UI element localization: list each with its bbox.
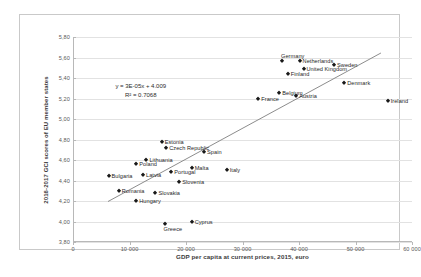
y-axis-tick-labels: 3,804,004,204,404,604,805,005,205,405,60… — [42, 37, 70, 242]
data-point[interactable] — [256, 96, 261, 101]
y-axis-tick-label: 5,00 — [59, 116, 70, 122]
y-axis-tick-mark — [73, 181, 76, 182]
x-axis-tick-label: 50 000 — [347, 246, 365, 252]
y-axis-tick-mark — [73, 160, 76, 161]
data-point-label: Slovakia — [158, 190, 180, 196]
x-axis-tick-label: 30 000 — [234, 246, 252, 252]
gridline — [73, 37, 412, 38]
y-axis-tick-label: 5,80 — [59, 34, 70, 40]
data-point-label: Spain — [207, 149, 222, 155]
data-point-label: Denmark — [347, 80, 370, 86]
y-axis-tick-mark — [73, 140, 76, 141]
x-axis-title: GDP per capita at current prices, 2015, … — [73, 253, 412, 260]
data-point-label: Finland — [291, 71, 310, 77]
y-axis-tick-label: 4,60 — [59, 157, 70, 163]
y-axis-tick-mark — [73, 78, 76, 79]
data-point-label: Latvia — [146, 172, 161, 178]
data-point-label: Bulgaria — [112, 173, 133, 179]
data-point-label: Malta — [195, 165, 209, 171]
y-axis-tick-label: 5,20 — [59, 96, 70, 102]
data-point-label: Portugal — [174, 169, 195, 175]
data-point-label: Romania — [122, 188, 145, 194]
gridline — [73, 160, 412, 161]
data-point-label: Hungary — [139, 198, 161, 204]
data-point-label: Germany — [281, 53, 304, 59]
x-axis-tick-label: 60 000 — [403, 246, 421, 252]
regression-equation: y = 3E-05x + 4.009 — [115, 82, 166, 91]
y-axis-tick-mark — [73, 201, 76, 202]
y-axis-tick-label: 4,40 — [59, 178, 70, 184]
y-axis-tick-label: 5,40 — [59, 75, 70, 81]
data-point[interactable] — [116, 188, 121, 193]
data-point-label: Sweden — [337, 62, 358, 68]
gridline — [73, 201, 412, 202]
data-point-label: Netherlands — [303, 58, 334, 64]
data-point-label: Slovenia — [182, 179, 204, 185]
data-point-label: Italy — [230, 167, 241, 173]
data-point[interactable] — [141, 173, 146, 178]
y-axis-tick-label: 4,80 — [59, 137, 70, 143]
data-point-label: Ireland — [391, 98, 408, 104]
y-axis-tick-mark — [73, 119, 76, 120]
gridline — [73, 78, 412, 79]
data-point[interactable] — [297, 58, 302, 63]
y-axis-tick-label: 3,80 — [59, 239, 70, 245]
x-axis-tick-label: 20 000 — [177, 246, 195, 252]
data-point[interactable] — [189, 219, 194, 224]
gridline — [73, 222, 412, 223]
x-axis-tick-mark — [412, 242, 413, 245]
data-point[interactable] — [169, 170, 174, 175]
chart-frame: 2016-2017 GCI scores of EU member states… — [19, 14, 400, 250]
y-axis-tick-mark — [73, 99, 76, 100]
data-point[interactable] — [224, 168, 229, 173]
data-point-label: France — [261, 96, 279, 102]
gridline — [73, 119, 412, 120]
x-axis-tick-label: 10 000 — [121, 246, 139, 252]
data-point-label: Austria — [299, 93, 317, 99]
data-point[interactable] — [285, 71, 290, 76]
data-point-label: Cyprus — [195, 219, 213, 225]
gridline — [73, 181, 412, 182]
y-axis-tick-label: 4,20 — [59, 198, 70, 204]
y-axis-tick-label: 4,00 — [59, 219, 70, 225]
data-point[interactable] — [280, 58, 285, 63]
y-axis-tick-label: 5,60 — [59, 55, 70, 61]
y-axis-tick-mark — [73, 37, 76, 38]
data-point-label: Greece — [164, 226, 183, 232]
y-axis-tick-mark — [73, 222, 76, 223]
r-squared-value: R² = 0.7068 — [115, 91, 166, 100]
regression-equation-annotation: y = 3E-05x + 4.009 R² = 0.7068 — [115, 82, 166, 100]
y-axis-tick-mark — [73, 58, 76, 59]
gridline — [73, 140, 412, 141]
plot-area: y = 3E-05x + 4.009 R² = 0.7068 GermanyNe… — [73, 37, 412, 242]
gridline — [73, 58, 412, 59]
data-point-label: Estonia — [165, 139, 184, 145]
data-point[interactable] — [342, 81, 347, 86]
data-point[interactable] — [106, 174, 111, 179]
data-point[interactable] — [134, 162, 139, 167]
x-axis-tick-label: 0 — [71, 246, 74, 252]
x-axis-tick-label: 40 000 — [290, 246, 308, 252]
data-point[interactable] — [164, 145, 169, 150]
data-point-label: Poland — [139, 161, 157, 167]
data-point[interactable] — [153, 190, 158, 195]
